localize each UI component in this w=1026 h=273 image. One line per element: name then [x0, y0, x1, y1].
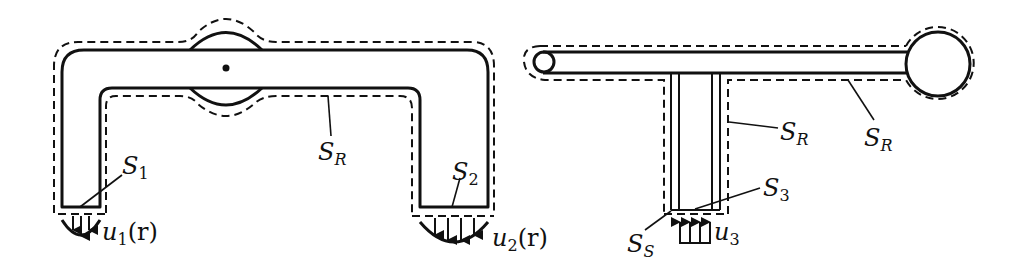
control-surface-outer: [54, 19, 494, 215]
right-end-ball: [906, 32, 970, 96]
label-u1: u1(r): [102, 218, 158, 249]
pivot-dot: [223, 65, 230, 72]
left-panel: S1 S2 SR u1(r) u2(r): [54, 19, 548, 255]
control-surface-inner: [106, 96, 412, 215]
label-u3: u3: [714, 218, 740, 249]
label-s1: S1: [122, 152, 149, 183]
label-ss: SS: [627, 230, 654, 261]
label-s2: S2: [452, 158, 479, 189]
label-s3: S3: [763, 174, 790, 205]
leader-sr-pipe: [729, 122, 778, 128]
velocity-profile-u2: [420, 222, 488, 242]
left-end-cap: [534, 52, 554, 72]
leader-sr-arm: [848, 80, 874, 120]
leader-s3: [695, 188, 760, 209]
arrows-u3: [679, 222, 711, 243]
hinge-bottom-arc: [190, 88, 262, 105]
label-u2: u2(r): [492, 224, 548, 255]
hinge-top-arc: [190, 33, 262, 51]
control-volume-diagram: S1 S2 SR u1(r) u2(r): [0, 0, 1026, 273]
label-sr-pipe: SR: [780, 118, 809, 149]
right-panel: SR SR S3 SS u3: [524, 27, 974, 261]
label-sr-arm: SR: [864, 124, 893, 155]
duct-outer-wall: [62, 50, 488, 207]
label-sr: SR: [318, 138, 347, 169]
leader-ss: [645, 211, 671, 230]
leader-sr: [328, 96, 331, 136]
arrows-u2: [435, 218, 474, 240]
inlet-pipe: [671, 74, 720, 210]
